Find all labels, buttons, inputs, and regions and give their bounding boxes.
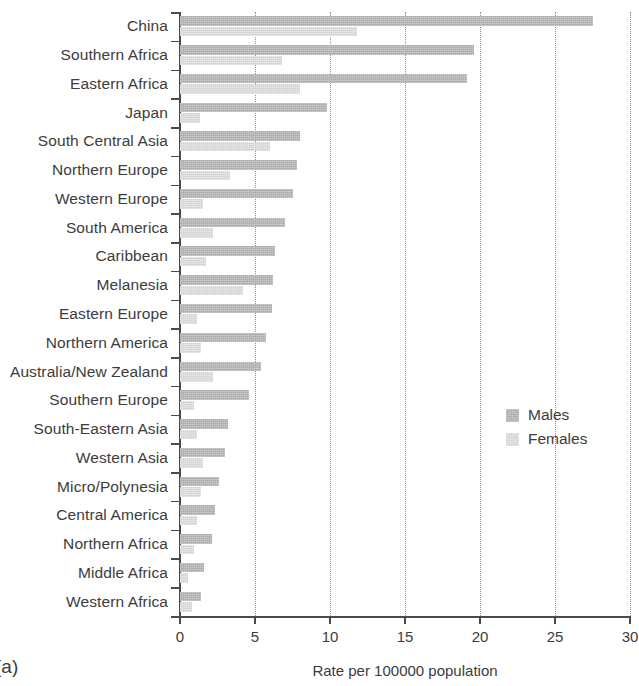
bar-chart-figure: ChinaSouthern AfricaEastern AfricaJapanS… (0, 0, 639, 686)
legend-item: Males (506, 403, 587, 427)
category-label: Eastern Europe (59, 305, 168, 323)
bar-male (180, 563, 204, 573)
y-tick (171, 12, 179, 14)
y-tick (171, 127, 179, 129)
chart-legend: MalesFemales (506, 403, 587, 451)
y-tick (171, 271, 179, 273)
x-tick-label: 0 (176, 628, 184, 645)
x-tick-label: 30 (622, 628, 639, 645)
bar-female (180, 545, 194, 555)
x-tick-30 (629, 616, 631, 624)
legend-item: Females (506, 427, 587, 451)
bar-group (180, 156, 630, 185)
category-label: Middle Africa (78, 564, 168, 582)
category-label: Central America (56, 506, 168, 524)
bar-group (180, 300, 630, 329)
category-label: Northern Africa (63, 535, 168, 553)
bar-female (180, 171, 230, 181)
x-tick-15 (404, 616, 406, 624)
y-tick (171, 300, 179, 302)
category-label: China (127, 17, 168, 35)
bar-group (180, 472, 630, 501)
category-label: Western Asia (76, 449, 168, 467)
bar-female (180, 27, 357, 37)
panel-caption: (a) (0, 656, 18, 678)
gridline-x-30 (630, 12, 631, 616)
y-tick (171, 185, 179, 187)
bar-female (180, 142, 270, 152)
x-tick-25 (554, 616, 556, 624)
bar-male (180, 275, 273, 285)
bar-male (180, 362, 261, 372)
bar-male (180, 390, 249, 400)
y-tick (171, 472, 179, 474)
bar-female (180, 84, 300, 94)
bar-male (180, 160, 297, 170)
category-label: Melanesia (96, 276, 168, 294)
bar-group (180, 357, 630, 386)
category-label: Caribbean (96, 247, 168, 265)
bar-female (180, 257, 206, 267)
bar-group (180, 213, 630, 242)
y-tick (171, 156, 179, 158)
x-axis-spine (179, 616, 631, 618)
y-tick (171, 386, 179, 388)
y-tick (171, 587, 179, 589)
bar-male (180, 534, 212, 544)
bar-male (180, 189, 293, 199)
y-tick (171, 357, 179, 359)
bar-male (180, 448, 225, 458)
bar-female (180, 602, 192, 612)
x-tick-label: 15 (397, 628, 414, 645)
bar-female (180, 516, 197, 526)
bar-male (180, 304, 272, 314)
category-label: Southern Europe (49, 391, 168, 409)
bar-female (180, 573, 188, 583)
bar-male (180, 16, 593, 26)
bar-female (180, 343, 201, 353)
bar-male (180, 45, 474, 55)
bar-group (180, 587, 630, 616)
category-label: Northern Europe (52, 161, 168, 179)
bar-male (180, 74, 467, 84)
y-tick (171, 501, 179, 503)
bar-group (180, 41, 630, 70)
x-tick-5 (254, 616, 256, 624)
y-tick (171, 242, 179, 244)
bar-female (180, 372, 213, 382)
legend-swatch (506, 433, 519, 446)
category-label: South America (66, 219, 168, 237)
bar-male (180, 246, 275, 256)
bar-group (180, 185, 630, 214)
bar-male (180, 505, 215, 515)
bar-female (180, 286, 243, 296)
bar-female (180, 113, 200, 123)
x-tick-0 (179, 616, 181, 624)
x-axis-title: Rate per 100000 population (180, 662, 630, 679)
y-tick (171, 530, 179, 532)
bar-female (180, 199, 203, 209)
bar-male (180, 477, 219, 487)
bar-female (180, 430, 197, 440)
bar-group (180, 328, 630, 357)
bar-group (180, 271, 630, 300)
bar-female (180, 56, 282, 66)
y-tick (171, 70, 179, 72)
bar-group (180, 242, 630, 271)
y-tick (171, 558, 179, 560)
bar-male (180, 592, 201, 602)
bar-group (180, 70, 630, 99)
y-tick (171, 213, 179, 215)
bar-female (180, 314, 197, 324)
bar-male (180, 103, 327, 113)
category-label: Western Europe (55, 190, 168, 208)
y-tick (171, 328, 179, 330)
bar-male (180, 333, 266, 343)
bar-group (180, 530, 630, 559)
bar-male (180, 131, 300, 141)
x-tick-label: 5 (251, 628, 259, 645)
category-label: Micro/Polynesia (57, 478, 168, 496)
y-tick (171, 98, 179, 100)
category-label: Japan (125, 104, 168, 122)
bar-group (180, 558, 630, 587)
